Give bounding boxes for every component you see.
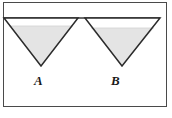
triangle-b-fill-region [91,28,154,66]
triangle-a-label: A [34,74,43,87]
triangle-b-group [85,18,160,66]
triangle-a-empty-region [4,18,78,26]
triangle-a-fill-region [9,26,73,66]
triangle-b-label: B [111,74,120,87]
figure-graphic [0,0,172,118]
triangle-a-group [4,18,78,66]
figure-container: A B [0,0,172,118]
triangle-b-empty-region [85,18,160,28]
